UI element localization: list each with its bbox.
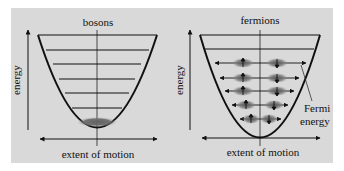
fermions-title: fermions	[240, 14, 279, 26]
fermions-x-label: extent of motion	[227, 146, 300, 158]
fermions-energy-label: energy	[173, 65, 185, 95]
fermi-label-line2: energy	[300, 115, 330, 127]
energy-levels	[38, 35, 157, 108]
fermi-energy-pointer	[301, 65, 312, 101]
bosons-diagram: bosons energy extent of motion	[10, 16, 157, 160]
bosons-energy-label: energy	[10, 65, 22, 95]
fermi-label-line1: Fermi	[304, 102, 330, 114]
bosons-title: bosons	[83, 16, 114, 28]
bosons-x-label: extent of motion	[62, 148, 135, 160]
fermions-diagram: fermions energy	[173, 14, 330, 158]
diagram-canvas: bosons energy extent of motion fermions …	[0, 0, 344, 171]
potential-well	[38, 35, 157, 128]
